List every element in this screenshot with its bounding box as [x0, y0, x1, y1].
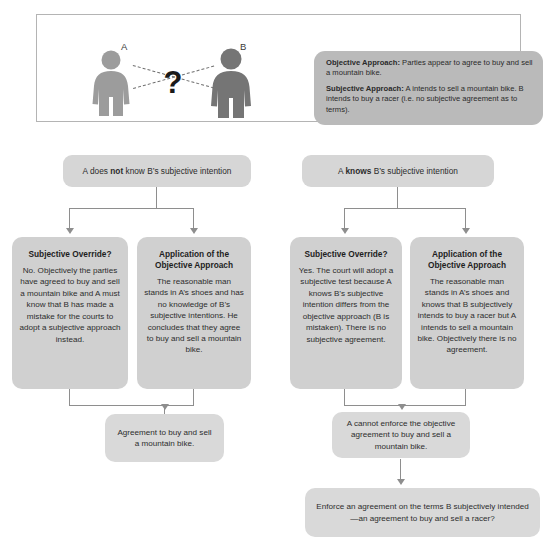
arrowhead-left-2 — [190, 228, 198, 234]
left-header-strong: not — [110, 166, 123, 176]
arrowhead-right-merge — [398, 404, 406, 410]
node-body: The reasonable man stands in A’s shoes a… — [144, 276, 244, 356]
person-a-label: A — [121, 41, 127, 52]
node-body: The reasonable man stands in A’s shoes a… — [417, 276, 517, 356]
person-b-silhouette — [205, 48, 257, 120]
branch-header-a-knows: A knows B’s subjective intention — [302, 155, 494, 187]
node-title: Application of the Objective Approach — [144, 249, 244, 271]
connector-right-crossbar — [344, 208, 466, 209]
person-b-label: B — [240, 41, 246, 52]
right-header-post: B’s subjective intention — [371, 166, 458, 176]
connector-right-merge-riser-2 — [465, 389, 466, 406]
connector-left-crossbar — [69, 208, 194, 209]
left-header-pre: A does — [83, 166, 111, 176]
result-left-text: Agreement to buy and sell a mountain bik… — [115, 427, 214, 450]
arrowhead-right-1 — [341, 228, 349, 234]
subjective-approach-label: Subjective Approach: — [326, 84, 404, 93]
arrowhead-left-1 — [66, 228, 74, 234]
result-final-enforce-subjective: Enforce an agreement on the terms B subj… — [305, 488, 540, 537]
connector-right-merge-riser-1 — [344, 389, 345, 406]
result-left-agreement: Agreement to buy and sell a mountain bik… — [105, 414, 224, 462]
connector-right-drop-2 — [465, 208, 466, 228]
node-title: Subjective Override? — [297, 249, 395, 260]
node-objective-application-right: Application of the Objective Approach Th… — [410, 237, 524, 389]
objective-approach-line: Objective Approach: Parties appear to ag… — [326, 58, 533, 79]
right-header-pre: A — [338, 166, 345, 176]
connector-final-stem — [400, 459, 401, 481]
result-right-cannot-enforce: A cannot enforce the objective agreement… — [332, 412, 470, 458]
connector-left-drop-1 — [69, 208, 70, 228]
node-body: No. Objectively the parties have agreed … — [19, 265, 121, 345]
arrowhead-left-merge — [161, 404, 169, 410]
approach-summary-panel: Objective Approach: Parties appear to ag… — [314, 51, 543, 125]
branch-header-left-text: A does not know B’s subjective intention — [83, 166, 232, 176]
connector-left-drop-2 — [193, 208, 194, 228]
left-header-post: know B’s subjective intention — [123, 166, 231, 176]
connector-right-drop-1 — [344, 208, 345, 228]
connector-left-merge-riser-2 — [193, 389, 194, 406]
branch-header-a-does-not-know: A does not know B’s subjective intention — [63, 155, 251, 187]
connector-left-merge-bar — [69, 405, 194, 406]
question-mark: ? — [161, 67, 185, 98]
right-header-strong: knows — [346, 166, 372, 176]
node-body: Yes. The court will adopt a subjective t… — [297, 265, 395, 345]
connector-right-stem — [397, 187, 398, 209]
arrowhead-right-2 — [462, 228, 470, 234]
objective-approach-label: Objective Approach: — [326, 58, 400, 67]
connector-left-merge-riser-1 — [69, 389, 70, 406]
node-title: Application of the Objective Approach — [417, 249, 517, 271]
illustration-frame: A B ? Objective Approach: Parties appear… — [36, 14, 521, 122]
arrowhead-final — [397, 479, 405, 485]
node-title: Subjective Override? — [19, 249, 121, 260]
result-final-text: Enforce an agreement on the terms B subj… — [315, 501, 530, 524]
node-objective-application-left: Application of the Objective Approach Th… — [137, 237, 251, 389]
branch-header-right-text: A knows B’s subjective intention — [338, 166, 458, 176]
person-a-silhouette — [87, 50, 135, 118]
connector-left-stem — [156, 187, 157, 209]
result-right-text: A cannot enforce the objective agreement… — [342, 418, 460, 452]
node-subjective-override-right: Subjective Override? Yes. The court will… — [290, 237, 402, 389]
subjective-approach-line: Subjective Approach: A intends to sell a… — [326, 84, 533, 115]
node-subjective-override-left: Subjective Override? No. Objectively the… — [12, 237, 128, 389]
